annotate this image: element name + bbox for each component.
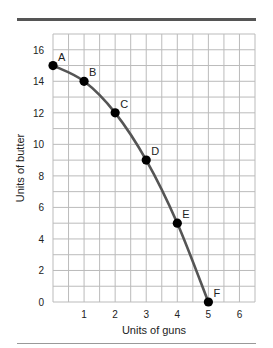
x-tick-label: 6 — [237, 309, 243, 320]
x-tick-label: 2 — [112, 309, 118, 320]
data-point-f — [204, 297, 213, 306]
y-tick-label: 12 — [33, 108, 45, 119]
y-tick-label: 10 — [33, 139, 45, 150]
x-tick-label: 1 — [81, 309, 87, 320]
data-point-e — [173, 219, 182, 228]
data-point-b — [79, 77, 88, 86]
x-tick-label: 4 — [175, 309, 181, 320]
point-label-d: D — [151, 145, 159, 157]
grid — [53, 34, 255, 302]
data-point-c — [111, 108, 120, 117]
point-label-a: A — [58, 51, 66, 63]
y-tick-label: 14 — [33, 76, 45, 87]
point-label-e: E — [182, 208, 189, 220]
x-tick-labels: 123456 — [81, 309, 242, 320]
x-tick-label: 5 — [206, 309, 212, 320]
bottom-rule — [17, 343, 256, 344]
point-label-f: F — [213, 287, 220, 299]
point-label-b: B — [89, 66, 96, 78]
ppf-chart: 0246810121416 123456 ABCDEF Units of gun… — [0, 0, 273, 348]
y-tick-labels: 0246810121416 — [33, 45, 45, 308]
x-axis-label: Units of guns — [122, 324, 187, 336]
data-point-d — [142, 156, 151, 165]
y-tick-label: 2 — [38, 265, 44, 276]
y-tick-label: 16 — [33, 45, 45, 56]
data-point-a — [48, 61, 57, 70]
x-tick-label: 3 — [143, 309, 149, 320]
y-tick-label: 4 — [38, 234, 44, 245]
y-tick-label: 6 — [38, 202, 44, 213]
point-label-c: C — [120, 98, 128, 110]
y-tick-label: 0 — [38, 297, 44, 308]
y-axis-label: Units of butter — [14, 133, 26, 202]
y-tick-label: 8 — [38, 171, 44, 182]
